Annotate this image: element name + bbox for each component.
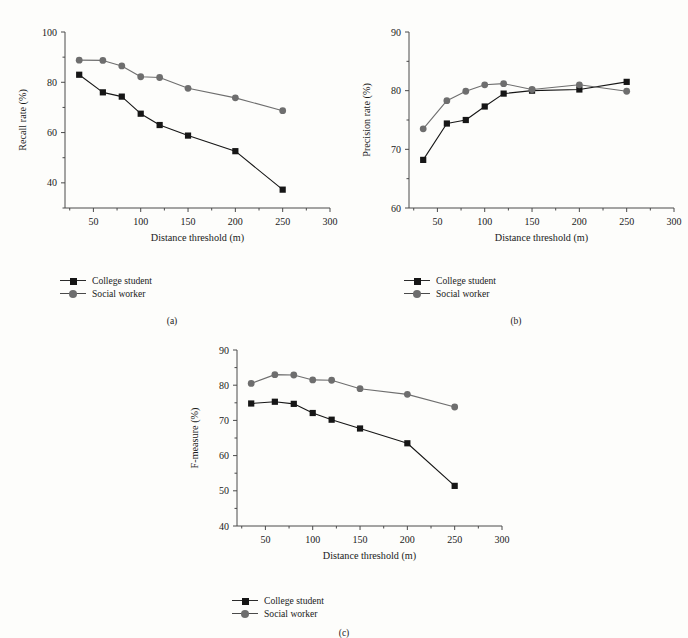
svg-text:100: 100	[133, 216, 148, 227]
svg-text:250: 250	[447, 534, 462, 545]
recall-rate-plot-svg: 40608010050100150200250300Distance thres…	[0, 0, 344, 262]
legend-panel-a: College student Social worker	[60, 274, 152, 300]
legend-panel-c: College student Social worker	[232, 594, 324, 620]
square-marker-icon	[404, 275, 430, 286]
circle-marker-icon	[60, 288, 86, 299]
svg-text:200: 200	[572, 216, 587, 227]
square-marker-icon	[60, 275, 86, 286]
svg-text:Distance threshold (m): Distance threshold (m)	[323, 550, 416, 562]
svg-text:300: 300	[495, 534, 510, 545]
legend-label-social-worker: Social worker	[92, 287, 146, 301]
svg-text:90: 90	[391, 27, 401, 38]
legend-label-social-worker: Social worker	[264, 607, 318, 621]
figure-panel-a: 40608010050100150200250300Distance thres…	[0, 0, 344, 320]
legend-label-college-student: College student	[92, 274, 152, 288]
square-marker-icon	[232, 595, 258, 606]
svg-text:100: 100	[305, 534, 320, 545]
f-measure-plot-svg: 40506070809050100150200250300Distance th…	[172, 318, 516, 580]
svg-text:Precision rate (%): Precision rate (%)	[361, 83, 373, 157]
precision-rate-plot-svg: 6070809050100150200250300Distance thresh…	[344, 0, 688, 262]
svg-text:70: 70	[391, 144, 401, 155]
svg-text:150: 150	[353, 534, 368, 545]
legend-item-social-worker: Social worker	[232, 607, 324, 620]
svg-text:50: 50	[432, 216, 442, 227]
svg-text:Distance threshold (m): Distance threshold (m)	[495, 232, 588, 244]
legend-label-college-student: College student	[264, 594, 324, 608]
svg-text:40: 40	[219, 521, 229, 532]
legend-panel-b: College student Social worker	[404, 274, 496, 300]
svg-text:50: 50	[88, 216, 98, 227]
figure-panel-b: 6070809050100150200250300Distance thresh…	[344, 0, 688, 320]
panel-caption-c: (c)	[172, 628, 516, 638]
svg-text:80: 80	[391, 85, 401, 96]
recall-rate-chart: 40608010050100150200250300Distance thres…	[0, 0, 344, 262]
svg-text:Distance threshold (m): Distance threshold (m)	[151, 232, 244, 244]
svg-text:250: 250	[619, 216, 634, 227]
svg-text:150: 150	[181, 216, 196, 227]
legend-item-college-student: College student	[60, 274, 152, 287]
f-measure-chart: 40506070809050100150200250300Distance th…	[172, 318, 516, 580]
svg-text:80: 80	[219, 380, 229, 391]
svg-text:300: 300	[667, 216, 682, 227]
legend-item-social-worker: Social worker	[404, 287, 496, 300]
svg-text:60: 60	[391, 203, 401, 214]
circle-marker-icon	[404, 288, 430, 299]
svg-text:40: 40	[47, 177, 57, 188]
svg-text:200: 200	[228, 216, 243, 227]
svg-text:50: 50	[260, 534, 270, 545]
svg-text:60: 60	[219, 450, 229, 461]
svg-text:250: 250	[275, 216, 290, 227]
svg-text:90: 90	[219, 345, 229, 356]
svg-text:100: 100	[42, 27, 57, 38]
svg-text:80: 80	[47, 77, 57, 88]
svg-text:60: 60	[47, 127, 57, 138]
legend-item-social-worker: Social worker	[60, 287, 152, 300]
legend-label-social-worker: Social worker	[436, 287, 490, 301]
legend-item-college-student: College student	[404, 274, 496, 287]
legend-label-college-student: College student	[436, 274, 496, 288]
svg-text:50: 50	[219, 485, 229, 496]
svg-text:70: 70	[219, 415, 229, 426]
svg-text:150: 150	[525, 216, 540, 227]
svg-text:F-measure (%): F-measure (%)	[189, 408, 201, 469]
circle-marker-icon	[232, 608, 258, 619]
svg-text:100: 100	[477, 216, 492, 227]
figure-panel-c: 40506070809050100150200250300Distance th…	[172, 318, 516, 638]
legend-item-college-student: College student	[232, 594, 324, 607]
svg-text:200: 200	[400, 534, 415, 545]
svg-text:300: 300	[323, 216, 338, 227]
precision-rate-chart: 6070809050100150200250300Distance thresh…	[344, 0, 688, 262]
svg-text:Recall rate (%): Recall rate (%)	[17, 89, 29, 151]
